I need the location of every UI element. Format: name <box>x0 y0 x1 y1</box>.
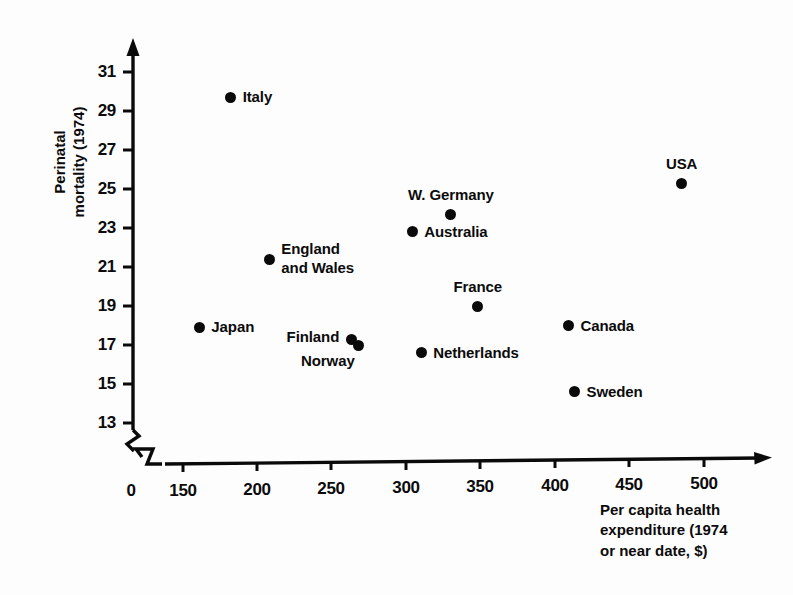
x-tick-label-200: 200 <box>243 480 270 500</box>
x-axis-title-line-3: or near date, $) <box>600 541 728 561</box>
data-point[interactable] <box>225 92 236 103</box>
x-tick-label-400: 400 <box>541 476 568 496</box>
x-axis-title-line-2: expenditure (1974 <box>600 520 728 540</box>
y-axis-title-line-1: Perinatal <box>51 130 68 193</box>
data-point-label: Sweden <box>586 382 642 401</box>
y-axis-arrowhead <box>127 38 140 56</box>
y-tick-label-13: 13 <box>88 413 116 433</box>
data-point-label: Netherlands <box>433 343 519 362</box>
y-axis-title-line-2: mortality (1974) <box>70 107 87 218</box>
data-point[interactable] <box>676 178 687 189</box>
data-point-label: USA <box>666 155 697 174</box>
y-tick-label-15: 15 <box>88 374 116 394</box>
x-tick-label-origin: 0 <box>126 481 135 501</box>
data-point-label: Australia <box>424 223 487 242</box>
y-axis-title: Perinatal mortality (1974) <box>38 52 100 272</box>
data-point-label: Norway <box>301 352 355 371</box>
y-tick-label-17: 17 <box>88 335 116 355</box>
data-point[interactable] <box>264 254 275 265</box>
data-point-label: Finland <box>287 328 340 347</box>
data-point-label: France <box>453 278 502 297</box>
x-tick-label-250: 250 <box>317 479 344 499</box>
x-axis-arrowhead <box>754 452 772 465</box>
x-tick-label-450: 450 <box>615 475 642 495</box>
x-axis-title: Per capita health expenditure (1974 or n… <box>600 500 728 561</box>
y-tick-label-19: 19 <box>88 296 116 316</box>
scatter-chart-figure: 31 29 27 25 23 21 19 17 15 13 0 150 200 … <box>0 0 793 595</box>
data-point[interactable] <box>472 301 483 312</box>
data-point[interactable] <box>194 322 205 333</box>
x-axis-title-line-1: Per capita health <box>600 500 728 520</box>
data-point-label: Canada <box>581 316 635 335</box>
x-axis-break-symbol <box>136 449 162 464</box>
data-point[interactable] <box>563 320 574 331</box>
x-tick-label-500: 500 <box>690 474 717 494</box>
x-axis-line <box>165 458 760 464</box>
data-point-label: W. Germany <box>408 187 494 206</box>
x-tick-label-300: 300 <box>392 478 419 498</box>
data-point-label: England and Wales <box>281 240 354 278</box>
x-tick-label-150: 150 <box>169 481 196 501</box>
data-point[interactable] <box>353 340 364 351</box>
x-tick-label-350: 350 <box>466 477 493 497</box>
data-point[interactable] <box>416 347 427 358</box>
data-point-label: Italy <box>243 88 273 107</box>
data-point-label: Japan <box>211 318 254 337</box>
